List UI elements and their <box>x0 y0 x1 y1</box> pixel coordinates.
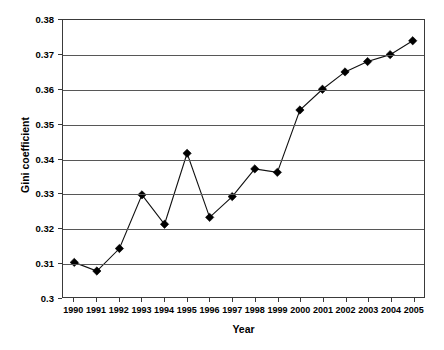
data-point-marker <box>409 37 417 45</box>
gridline <box>63 194 424 195</box>
gini-coefficient-line-chart: Gini coefficient 0.380.370.360.350.340.3… <box>0 0 444 350</box>
x-axis-tick-mark <box>141 298 142 302</box>
x-axis-tick-mark <box>255 298 256 302</box>
x-axis-tick-label: 2005 <box>394 305 434 315</box>
y-axis-tick-label: 0.38 <box>14 14 54 25</box>
data-point-marker <box>183 149 191 157</box>
x-axis-title: Year <box>62 323 425 335</box>
data-point-marker <box>70 258 78 266</box>
x-axis-tick-mark <box>346 298 347 302</box>
gridline <box>63 229 424 230</box>
gridline <box>63 264 424 265</box>
x-axis-tick-mark <box>414 298 415 302</box>
gridline <box>63 55 424 56</box>
plot-area <box>62 19 425 298</box>
x-axis-tick-mark <box>278 298 279 302</box>
y-axis-tick-label: 0.36 <box>14 83 54 94</box>
series-svg <box>63 20 424 297</box>
x-axis-tick-mark <box>187 298 188 302</box>
x-axis-tick-mark <box>391 298 392 302</box>
y-axis-tick-label: 0.31 <box>14 258 54 269</box>
gridline <box>63 160 424 161</box>
x-axis-tick-mark <box>164 298 165 302</box>
data-point-marker <box>273 168 281 176</box>
x-axis-tick-mark <box>119 298 120 302</box>
y-axis-tick-label: 0.35 <box>14 118 54 129</box>
data-point-marker <box>363 57 371 65</box>
y-axis-tick-label: 0.37 <box>14 48 54 59</box>
x-axis-tick-mark <box>300 298 301 302</box>
series-line <box>74 41 412 271</box>
y-axis-tick-label: 0.34 <box>14 153 54 164</box>
x-axis-tick-layer: 1990199119921993199419951996199719981999… <box>0 298 444 324</box>
y-axis-tick-label: 0.33 <box>14 188 54 199</box>
x-axis-tick-mark <box>323 298 324 302</box>
gridline <box>63 90 424 91</box>
x-axis-tick-mark <box>232 298 233 302</box>
x-axis-tick-mark <box>368 298 369 302</box>
y-axis-tick-label: 0.32 <box>14 223 54 234</box>
x-axis-tick-mark <box>73 298 74 302</box>
y-axis-tick-layer: 0.380.370.360.350.340.330.320.310.3 <box>0 19 62 298</box>
x-axis-tick-mark <box>209 298 210 302</box>
gridline <box>63 125 424 126</box>
x-axis-tick-mark <box>96 298 97 302</box>
